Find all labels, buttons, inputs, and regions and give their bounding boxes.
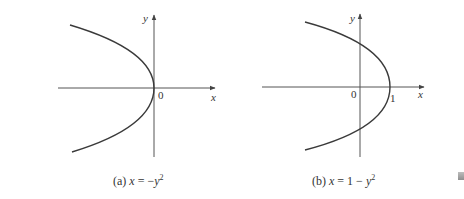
panel-b: 0 1 x y [262,12,424,157]
vertex-label-b: 1 [390,92,396,104]
y-axis-label-a: y [142,12,148,24]
x-axis-label-b: x [417,88,423,100]
x-axis-label-a: x [210,91,216,103]
caption-a-prefix: (a) [113,174,129,188]
caption-b-eq: = 1 − [334,174,366,188]
caption-b-exponent: 2 [371,173,375,182]
caption-b: (b) x = 1 − y2 [312,174,375,189]
origin-label-a: 0 [158,89,164,101]
caption-a-exponent: 2 [160,173,164,182]
origin-label-b: 0 [351,88,357,100]
caption-a-eq: = − [135,174,155,188]
page-corner-mark [458,172,464,180]
panel-a: 0 x y [58,12,216,157]
caption-b-prefix: (b) [312,174,329,188]
caption-a: (a) x = −y2 [113,174,164,189]
parabola-curve-b [305,22,390,150]
y-axis-label-b: y [349,12,355,24]
parabola-figure: 0 x y 0 1 x y [0,0,464,199]
